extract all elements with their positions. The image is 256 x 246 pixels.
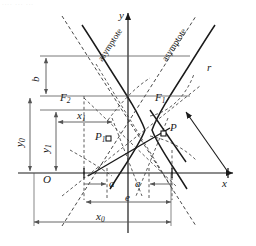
right-branch: [152, 25, 215, 189]
dim-y1-label: y1: [40, 144, 52, 153]
marker-P1: [106, 136, 111, 141]
dashed-arc-left-lower: [70, 150, 112, 176]
dim-e-label: e: [125, 192, 130, 203]
focus-f1-label: F1: [155, 92, 165, 104]
origin-label: O: [43, 174, 51, 185]
figure-canvas: .... ... ...: [0, 0, 256, 246]
dim-r-label: r: [207, 62, 211, 73]
hyperbola-vector-drawing: [0, 0, 256, 246]
r-line: [186, 112, 228, 172]
left-branch: [82, 25, 145, 189]
focus-f2-label: F2: [60, 92, 70, 104]
y-axis-label: y: [119, 10, 124, 21]
dim-x1-label: x1: [77, 110, 86, 122]
dim-x0-label: x0: [96, 211, 105, 223]
construction-dashed-lines: [62, 64, 200, 200]
dim-y0-label: y0: [14, 138, 26, 147]
dim-a-right-label: a: [135, 178, 141, 189]
radius-r-arrow: [186, 112, 228, 172]
dim-a-left-label: a: [109, 178, 115, 189]
marker-P: [161, 131, 166, 136]
x-axis-label: x: [222, 178, 227, 189]
point-p-label: P: [170, 122, 177, 133]
dim-b-label: b: [30, 77, 41, 83]
point-p1-label: P1: [95, 131, 105, 143]
